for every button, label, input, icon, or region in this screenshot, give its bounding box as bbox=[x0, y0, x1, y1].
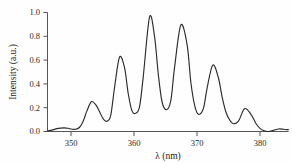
y-tick-label: 0.0 bbox=[29, 126, 40, 136]
y-axis-title: Intensity (a.u.) bbox=[8, 44, 19, 100]
x-tick-label: 360 bbox=[128, 138, 141, 148]
spectrum-figure: 0.0 0.2 0.4 0.6 0.8 1.0 350 360 370 380 … bbox=[0, 0, 292, 163]
y-axis-tick-labels: 0.0 0.2 0.4 0.6 0.8 1.0 bbox=[29, 7, 40, 136]
y-tick-label: 0.8 bbox=[29, 31, 40, 41]
y-tick-label: 0.6 bbox=[29, 55, 40, 65]
y-tick-label: 1.0 bbox=[29, 7, 40, 17]
x-tick-label: 370 bbox=[191, 138, 204, 148]
plot-canvas: 0.0 0.2 0.4 0.6 0.8 1.0 350 360 370 380 … bbox=[0, 0, 292, 163]
y-tick-label: 0.2 bbox=[29, 103, 40, 113]
x-tick-label: 380 bbox=[254, 138, 267, 148]
x-axis-tick-labels: 350 360 370 380 bbox=[65, 138, 267, 148]
x-tick-label: 350 bbox=[65, 138, 78, 148]
y-axis-tickmarks bbox=[44, 13, 48, 132]
y-tick-label: 0.4 bbox=[29, 79, 40, 89]
x-axis-title: λ (nm) bbox=[155, 151, 180, 162]
x-axis-tickmarks bbox=[71, 132, 260, 137]
spectrum-curve bbox=[48, 16, 289, 132]
